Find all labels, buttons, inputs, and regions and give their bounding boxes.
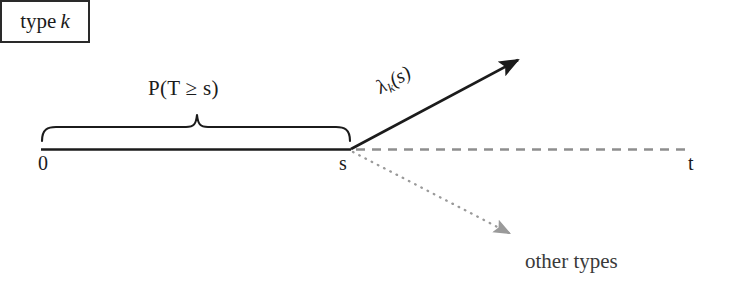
survival-probability-label: P(T ≥ s) xyxy=(148,76,219,101)
other-types-label: other types xyxy=(525,249,618,274)
survival-brace xyxy=(42,115,350,141)
survival-probability-text: P(T ≥ s) xyxy=(148,76,219,100)
diagram-vector-layer xyxy=(0,0,729,290)
type-k-transition-arrow xyxy=(351,60,518,149)
axis-label-t: t xyxy=(688,152,694,175)
axis-label-s: s xyxy=(339,152,347,175)
diagram-canvas: P(T ≥ s) λk(s) typek 0 s t other types xyxy=(0,0,729,290)
other-types-transition-arrow xyxy=(353,152,509,233)
axis-label-origin: 0 xyxy=(38,152,48,175)
